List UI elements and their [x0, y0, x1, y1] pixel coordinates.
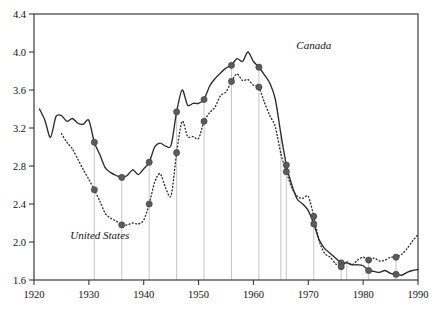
x-tick-label: 1960: [243, 289, 264, 300]
data-point-marker: [228, 78, 234, 84]
data-point-marker: [338, 264, 344, 270]
x-tick-label: 1920: [24, 289, 45, 300]
data-point-marker: [201, 118, 207, 124]
x-tick-label: 1990: [408, 289, 429, 300]
y-tick-label: 2.8: [13, 161, 26, 172]
data-point-marker: [174, 150, 180, 156]
data-point-marker: [146, 159, 152, 165]
y-tick-label: 2.4: [13, 199, 27, 210]
x-tick-label: 1980: [353, 289, 374, 300]
x-tick-label: 1940: [133, 289, 154, 300]
data-point-marker: [201, 96, 207, 102]
x-tick-label: 1930: [78, 289, 99, 300]
data-point-marker: [119, 222, 125, 228]
data-point-marker: [91, 139, 97, 145]
data-point-marker: [393, 254, 399, 260]
data-point-marker: [256, 64, 262, 70]
y-tick-label: 1.6: [13, 275, 26, 286]
x-tick-label: 1970: [298, 289, 319, 300]
series-label: United States: [70, 229, 129, 241]
data-point-marker: [366, 257, 372, 263]
data-point-marker: [311, 213, 317, 219]
data-point-marker: [91, 187, 97, 193]
data-point-marker: [283, 162, 289, 168]
y-tick-label: 2.0: [13, 237, 26, 248]
data-point-marker: [174, 109, 180, 115]
data-point-marker: [393, 271, 399, 277]
data-point-marker: [228, 62, 234, 68]
series-label: Canada: [296, 39, 331, 51]
data-point-marker: [119, 174, 125, 180]
chart-canvas: 1.62.02.42.83.23.64.04.4 192019301940195…: [0, 0, 434, 311]
y-tick-label: 4.0: [13, 47, 26, 58]
data-point-marker: [311, 221, 317, 227]
y-tick-label: 4.4: [13, 9, 27, 20]
data-point-marker: [366, 267, 372, 273]
x-tick-label: 1950: [188, 289, 209, 300]
y-tick-label: 3.6: [13, 85, 26, 96]
data-point-marker: [283, 169, 289, 175]
data-point-marker: [146, 201, 152, 207]
data-point-marker: [256, 84, 262, 90]
fertility-rate-chart: 1.62.02.42.83.23.64.04.4 192019301940195…: [0, 0, 434, 311]
y-tick-label: 3.2: [13, 123, 26, 134]
